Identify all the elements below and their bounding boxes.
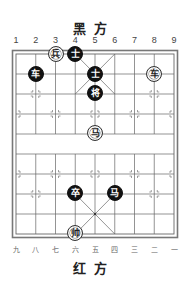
- piece-glyph: 帅: [71, 229, 80, 238]
- red-side-label: 红方: [0, 258, 187, 277]
- palace-center-dot: [94, 213, 96, 215]
- file-label-8: 八: [30, 244, 42, 254]
- file-label-6: 六: [69, 244, 81, 254]
- file-label-3: 三: [129, 244, 141, 254]
- bottom-file-labels: 九 八 七 六 五 四 三 二 一: [0, 244, 187, 256]
- black-general[interactable]: 将: [87, 85, 103, 101]
- black-chariot[interactable]: 车: [28, 66, 44, 82]
- black-horse[interactable]: 马: [107, 185, 123, 201]
- file-label-5: 五: [89, 244, 101, 254]
- piece-glyph: 将: [91, 89, 100, 98]
- file-label-7: 七: [50, 244, 62, 254]
- piece-glyph: 士: [91, 70, 100, 79]
- file-label-2: 二: [148, 244, 160, 254]
- piece-glyph: 马: [91, 129, 100, 138]
- piece-glyph: 卒: [71, 189, 80, 198]
- file-label-9: 九: [10, 244, 22, 254]
- piece-glyph: 车: [150, 70, 159, 79]
- piece-glyph: 马: [110, 189, 119, 198]
- file-label-4: 四: [109, 244, 121, 254]
- red-horse[interactable]: 马: [87, 125, 103, 141]
- piece-glyph: 兵: [51, 50, 60, 59]
- file-label-1: 一: [168, 244, 180, 254]
- piece-glyph: 士: [71, 50, 80, 59]
- piece-glyph: 车: [31, 70, 40, 79]
- black-advisor[interactable]: 士: [87, 66, 103, 82]
- red-soldier[interactable]: 兵: [48, 46, 64, 62]
